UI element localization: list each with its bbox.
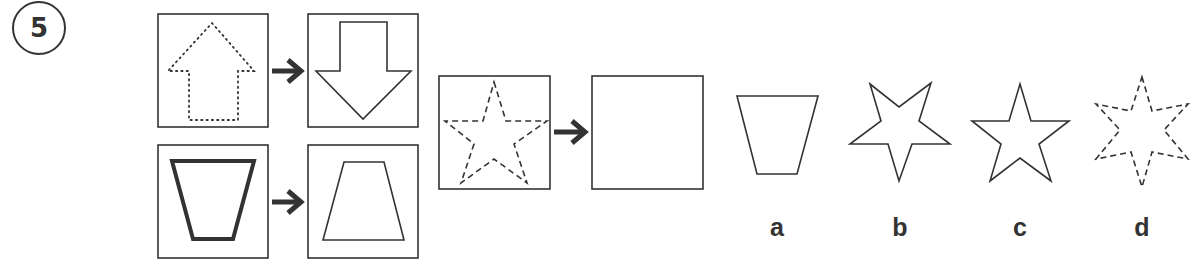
arrow-right-icon: [554, 121, 585, 143]
option-a-label[interactable]: a: [762, 213, 792, 242]
option-d-hexagram-icon[interactable]: [1096, 77, 1188, 187]
dashed-star-icon: [445, 82, 547, 183]
example1-source-box: [158, 14, 268, 127]
bold-trapezoid-icon: [172, 161, 254, 239]
option-c-label[interactable]: c: [1005, 213, 1035, 242]
answer-box[interactable]: [592, 76, 703, 189]
question-source-box: [439, 76, 550, 189]
option-b-label[interactable]: b: [885, 213, 915, 242]
option-d-label[interactable]: d: [1127, 213, 1157, 242]
option-a-trapezoid-icon[interactable]: [737, 96, 818, 174]
upright-trapezoid-icon: [323, 162, 404, 240]
solid-down-arrow-icon: [316, 22, 411, 119]
option-c-star-icon[interactable]: [972, 84, 1069, 181]
arrow-right-icon: [272, 191, 301, 213]
arrow-right-icon: [272, 60, 301, 82]
option-b-star-icon[interactable]: [850, 83, 950, 181]
dotted-up-arrow-icon: [168, 23, 254, 120]
